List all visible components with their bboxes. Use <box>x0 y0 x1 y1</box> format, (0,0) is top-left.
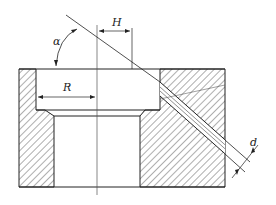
right-wall-section <box>140 69 250 187</box>
left-wall-section <box>19 69 54 187</box>
cross-section-diagram: H α R d <box>0 0 276 205</box>
label-d: d <box>250 136 257 149</box>
channel-extension-1 <box>225 140 250 162</box>
alpha-angle: α <box>53 29 77 66</box>
label-alpha: α <box>53 35 61 48</box>
label-r: R <box>62 81 71 94</box>
label-h: H <box>111 16 122 29</box>
channel-extension-2 <box>225 154 245 172</box>
r-dimension: R <box>38 81 95 99</box>
